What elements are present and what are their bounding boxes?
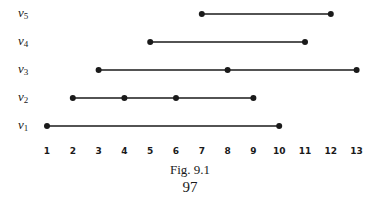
- row-label-v3: v3: [18, 62, 28, 79]
- figure-caption: Fig. 9.1: [0, 162, 380, 178]
- interval-v2: [70, 95, 257, 101]
- tick-label: 3: [95, 146, 101, 156]
- interval-point: [173, 95, 179, 101]
- tick-label: 12: [325, 146, 338, 156]
- tick-label: 1: [44, 146, 50, 156]
- tick-label: 10: [273, 146, 286, 156]
- interval-point: [354, 67, 360, 73]
- tick-label: 6: [173, 146, 179, 156]
- interval-point: [70, 95, 76, 101]
- interval-v3: [96, 67, 360, 73]
- interval-point: [121, 95, 127, 101]
- row-label-v2: v2: [18, 90, 28, 107]
- interval-point: [44, 123, 50, 129]
- interval-point: [225, 67, 231, 73]
- page-number: 97: [0, 179, 380, 196]
- interval-point: [96, 67, 102, 73]
- tick-label: 2: [70, 146, 76, 156]
- tick-label: 9: [250, 146, 256, 156]
- tick-label: 13: [350, 146, 363, 156]
- interval-point: [250, 95, 256, 101]
- tick-label: 11: [299, 146, 312, 156]
- row-label-v5: v5: [18, 6, 28, 23]
- tick-label: 5: [147, 146, 153, 156]
- interval-point: [199, 11, 205, 17]
- interval-point: [147, 39, 153, 45]
- interval-point: [328, 11, 334, 17]
- interval-point: [276, 123, 282, 129]
- row-label-v1: v1: [18, 118, 28, 135]
- interval-v1: [44, 123, 282, 129]
- tick-label: 7: [199, 146, 205, 156]
- row-label-v4: v4: [18, 34, 28, 51]
- interval-point: [302, 39, 308, 45]
- tick-label: 4: [121, 146, 127, 156]
- interval-v4: [147, 39, 308, 45]
- tick-label: 8: [224, 146, 230, 156]
- interval-diagram: v5v4v3v2v1 12345678910111213 Fig. 9.1 97: [0, 0, 380, 200]
- interval-v5: [199, 11, 334, 17]
